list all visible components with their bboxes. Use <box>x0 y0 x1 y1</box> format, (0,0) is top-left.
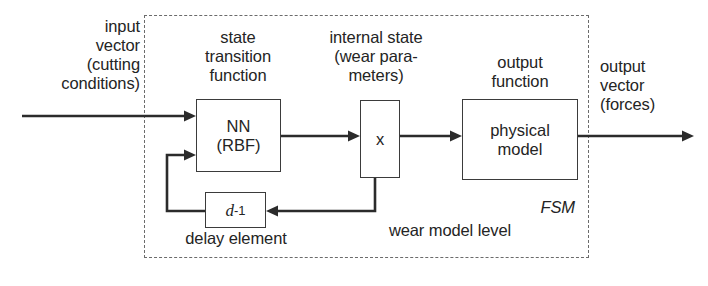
output-function-label: output function <box>492 53 549 91</box>
internal-state-label: internal state (wear para- meters) <box>329 28 422 85</box>
delay-symbol: d <box>225 201 234 220</box>
physical-model-box: physical model <box>462 99 578 180</box>
fsm-label: FSM <box>540 198 575 217</box>
output-vector-label: output vector (forces) <box>600 57 655 114</box>
nn-rbf-box: NN (RBF) <box>196 99 281 172</box>
delay-exponent: -1 <box>234 201 246 220</box>
state-variable-box: x <box>360 100 400 178</box>
state-transition-function-label: state transition function <box>205 28 271 85</box>
diagram-canvas: input vector (cutting conditions) state … <box>0 0 708 286</box>
delay-element-box: d-1 <box>205 192 266 228</box>
wire-physical-model-to-output <box>578 131 694 142</box>
wear-model-level-label: wear model level <box>389 221 511 240</box>
input-vector-label: input vector (cutting conditions) <box>61 17 140 93</box>
delay-element-label: delay element <box>185 229 286 248</box>
